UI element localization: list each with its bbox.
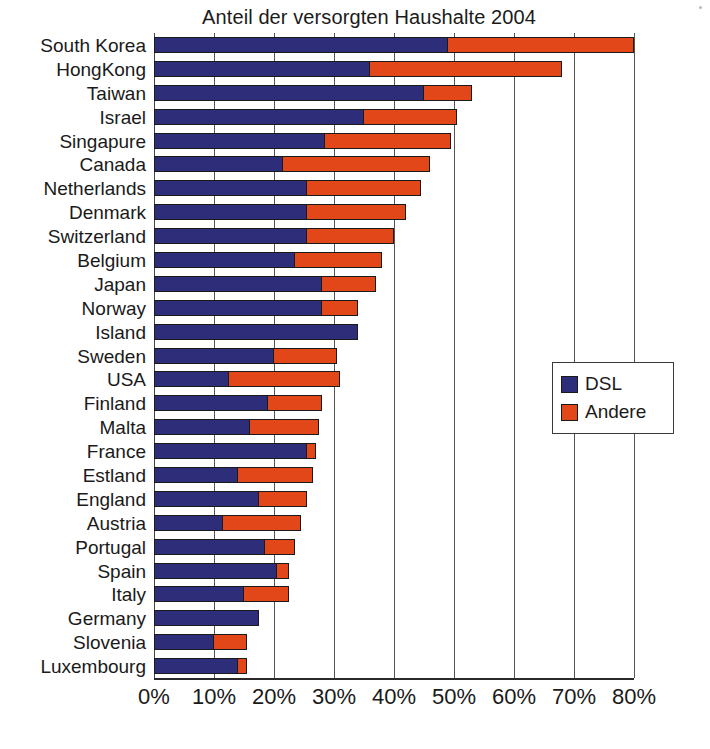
category-label: Israel	[0, 107, 152, 129]
bar-segment-dsl	[154, 109, 364, 125]
bar-segment-andere	[238, 467, 313, 483]
bar-segment-dsl	[154, 419, 250, 435]
legend-label-andere: Andere	[585, 401, 646, 423]
x-axis-tick-labels: 0%10%20%30%40%50%60%70%80%	[154, 684, 634, 716]
bar-row	[154, 324, 358, 340]
bar-segment-dsl	[154, 634, 214, 650]
bar-segment-dsl	[154, 324, 358, 340]
bar-segment-dsl	[154, 180, 307, 196]
bar-segment-dsl	[154, 348, 274, 364]
bar-segment-andere	[238, 658, 247, 674]
gridline	[514, 33, 515, 678]
bar-segment-andere	[268, 395, 322, 411]
legend-swatch-dsl-icon	[561, 376, 578, 393]
bar-segment-andere	[307, 228, 394, 244]
x-tick-label: 50%	[432, 684, 476, 710]
legend-item-andere: Andere	[561, 398, 665, 426]
bar-segment-dsl	[154, 658, 238, 674]
bar-row	[154, 371, 340, 387]
bar-segment-dsl	[154, 133, 325, 149]
bar-row	[154, 610, 259, 626]
bar-segment-andere	[448, 37, 634, 53]
bar-segment-dsl	[154, 610, 259, 626]
bar-segment-andere	[325, 133, 451, 149]
category-label: Island	[0, 322, 152, 344]
category-label: Netherlands	[0, 178, 152, 200]
chart-legend: DSL Andere	[552, 362, 674, 434]
bar-row	[154, 658, 247, 674]
bar-row	[154, 443, 316, 459]
bar-segment-andere	[274, 348, 337, 364]
bar-row	[154, 109, 457, 125]
bar-segment-dsl	[154, 467, 238, 483]
bar-segment-andere	[277, 563, 289, 579]
category-label: USA	[0, 369, 152, 391]
bar-row	[154, 467, 313, 483]
x-tick-label: 20%	[252, 684, 296, 710]
bar-segment-dsl	[154, 586, 244, 602]
bar-row	[154, 515, 301, 531]
legend-label-dsl: DSL	[585, 373, 622, 395]
bar-row	[154, 204, 406, 220]
bar-segment-dsl	[154, 395, 268, 411]
bar-row	[154, 276, 376, 292]
x-tick-label: 30%	[312, 684, 356, 710]
bar-segment-andere	[244, 586, 289, 602]
bar-row	[154, 563, 289, 579]
bar-segment-andere	[424, 85, 472, 101]
bar-row	[154, 539, 295, 555]
category-label: Spain	[0, 561, 152, 583]
x-axis-line	[154, 678, 634, 680]
category-label: Canada	[0, 154, 152, 176]
chart-title: Anteil der versorgten Haushalte 2004	[0, 6, 710, 29]
category-label: Sweden	[0, 346, 152, 368]
gridline	[454, 33, 455, 678]
bar-row	[154, 419, 319, 435]
category-label: Portugal	[0, 537, 152, 559]
bar-segment-dsl	[154, 276, 322, 292]
bar-segment-dsl	[154, 85, 424, 101]
bar-segment-andere	[223, 515, 301, 531]
bar-row	[154, 395, 322, 411]
category-label: Denmark	[0, 202, 152, 224]
bar-segment-dsl	[154, 371, 229, 387]
bar-segment-dsl	[154, 491, 259, 507]
category-label: Japan	[0, 274, 152, 296]
chart-container: Anteil der versorgten Haushalte 2004 Sou…	[0, 0, 710, 749]
bar-row	[154, 85, 472, 101]
x-tick-label: 80%	[612, 684, 656, 710]
bar-segment-dsl	[154, 563, 277, 579]
bar-segment-andere	[307, 204, 406, 220]
bar-segment-andere	[322, 300, 358, 316]
bar-segment-dsl	[154, 228, 307, 244]
category-label: England	[0, 489, 152, 511]
category-label: Belgium	[0, 250, 152, 272]
caption-sliver	[10, 728, 700, 746]
x-tick-label: 60%	[492, 684, 536, 710]
bar-row	[154, 586, 289, 602]
category-label: Slovenia	[0, 632, 152, 654]
bar-segment-andere	[229, 371, 340, 387]
bar-row	[154, 491, 307, 507]
bar-segment-andere	[307, 180, 421, 196]
gridline	[634, 33, 635, 678]
bar-segment-andere	[295, 252, 382, 268]
bar-segment-andere	[283, 156, 430, 172]
bar-row	[154, 300, 358, 316]
bar-segment-dsl	[154, 156, 283, 172]
bar-segment-andere	[259, 491, 307, 507]
bar-segment-dsl	[154, 37, 448, 53]
category-axis-labels: South KoreaHongKongTaiwanIsraelSingapure…	[0, 33, 152, 678]
category-label: South Korea	[0, 35, 152, 57]
category-label: Finland	[0, 393, 152, 415]
bar-row	[154, 634, 247, 650]
category-label: Luxembourg	[0, 656, 152, 678]
x-tick-label: 40%	[372, 684, 416, 710]
gridline	[394, 33, 395, 678]
category-label: Norway	[0, 298, 152, 320]
bar-segment-andere	[214, 634, 247, 650]
bar-row	[154, 228, 394, 244]
bar-row	[154, 61, 562, 77]
bar-segment-dsl	[154, 539, 265, 555]
legend-item-dsl: DSL	[561, 370, 665, 398]
